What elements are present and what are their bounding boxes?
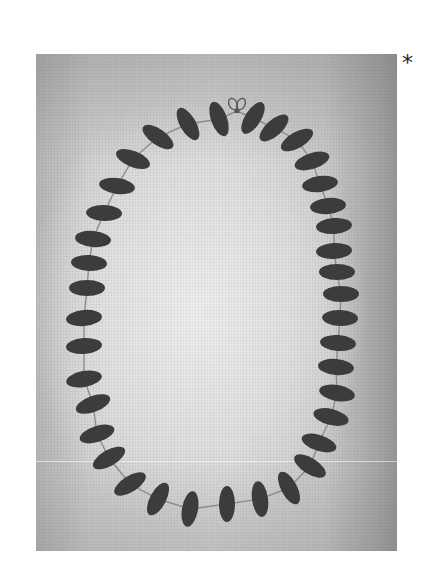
bead: [71, 254, 108, 272]
bead: [319, 264, 355, 280]
bead: [301, 174, 339, 195]
bead: [312, 405, 351, 429]
necklace: [0, 0, 439, 583]
bead: [65, 337, 102, 355]
bead: [318, 382, 356, 404]
bead: [86, 204, 123, 221]
bead: [315, 217, 352, 235]
bead: [317, 357, 354, 376]
bead: [319, 334, 356, 352]
asterisk-marker: *: [402, 52, 413, 74]
bead: [323, 286, 359, 302]
bead: [142, 479, 173, 518]
bead: [250, 480, 271, 518]
bead: [172, 104, 204, 143]
bead: [65, 368, 103, 390]
bead: [73, 390, 112, 417]
clasp-icon: [227, 97, 247, 113]
bead: [98, 176, 136, 197]
bead: [299, 430, 338, 456]
bead: [65, 308, 102, 327]
bead: [74, 229, 111, 248]
bead: [292, 148, 331, 174]
bead: [113, 145, 152, 173]
bead: [309, 196, 346, 215]
bead: [290, 450, 329, 483]
bead: [69, 280, 105, 296]
bead: [89, 442, 128, 474]
beads: [65, 98, 359, 528]
bead: [219, 486, 235, 522]
bead: [322, 309, 359, 326]
bead: [179, 490, 201, 528]
bead: [77, 421, 116, 447]
bead: [110, 468, 149, 501]
bead: [273, 468, 304, 507]
bead: [316, 242, 353, 260]
